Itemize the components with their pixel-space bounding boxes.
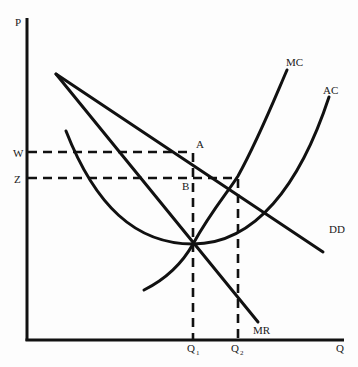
svg-text:1: 1 [196,349,200,357]
economics-diagram: P Q W Z A B MC AC DD MR Q 1 Q 2 [0,0,358,367]
dd-label: DD [329,223,345,235]
price-z-label: Z [14,173,21,185]
average-cost-curve-ac [66,97,329,244]
price-w-label: W [13,147,24,159]
demand-curve-dd [56,74,323,252]
q2-label: Q 2 [231,342,244,357]
ac-label: AC [323,84,338,96]
mr-label: MR [253,324,271,336]
marginal-revenue-curve-mr [56,74,258,322]
svg-text:Q: Q [187,342,195,354]
mc-label: MC [286,56,303,68]
y-axis-label: P [15,16,21,28]
point-b-label: B [182,180,189,192]
svg-text:Q: Q [231,342,239,354]
q1-label: Q 1 [187,342,200,357]
x-axis-label: Q [336,342,344,354]
point-a-label: A [196,138,204,150]
svg-text:2: 2 [240,349,244,357]
